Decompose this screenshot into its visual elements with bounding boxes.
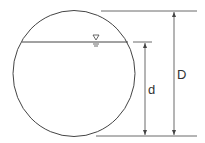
pipe-circle bbox=[13, 11, 135, 137]
water-surface-icon bbox=[93, 35, 99, 46]
depth-label: d bbox=[148, 83, 155, 96]
diameter-label: D bbox=[177, 68, 186, 81]
pipe-diagram bbox=[0, 0, 205, 143]
diameter-dimension-arrow bbox=[172, 12, 176, 135]
depth-dimension-arrow bbox=[143, 43, 147, 135]
